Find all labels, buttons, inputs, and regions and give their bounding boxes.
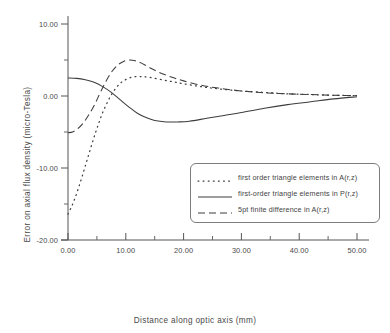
legend-swatch-solid	[197, 188, 233, 198]
x-tick-label: 40.00	[285, 246, 313, 255]
chart-figure: 0.0010.0020.0030.0040.0050.00 10.000.00-…	[0, 0, 390, 333]
x-tick-label: 0.00	[54, 246, 82, 255]
y-axis-title: Error on axial flux density (micro-Tesla…	[23, 50, 32, 280]
legend-item: first-order triangle elements in P(r,z)	[197, 185, 375, 201]
legend-label: 5pt finite difference in A(r,z)	[238, 205, 330, 214]
x-axis-title: Distance along optic axis (mm)	[0, 316, 390, 325]
x-tick-label: 50.00	[343, 246, 371, 255]
legend-swatch-dashed	[197, 204, 233, 214]
chart-legend: first order triangle elements in A(r,z)f…	[190, 163, 380, 223]
legend-swatch-dotted	[197, 172, 233, 182]
series-line-1	[68, 78, 357, 122]
legend-item: first order triangle elements in A(r,z)	[197, 169, 375, 185]
legend-label: first-order triangle elements in P(r,z)	[238, 189, 358, 198]
legend-label: first order triangle elements in A(r,z)	[238, 173, 357, 182]
x-tick-label: 20.00	[170, 246, 198, 255]
y-tick-label: 10.00	[22, 20, 58, 29]
legend-item: 5pt finite difference in A(r,z)	[197, 201, 375, 217]
x-tick-label: 10.00	[112, 246, 140, 255]
series-line-2	[68, 60, 357, 133]
x-tick-label: 30.00	[227, 246, 255, 255]
